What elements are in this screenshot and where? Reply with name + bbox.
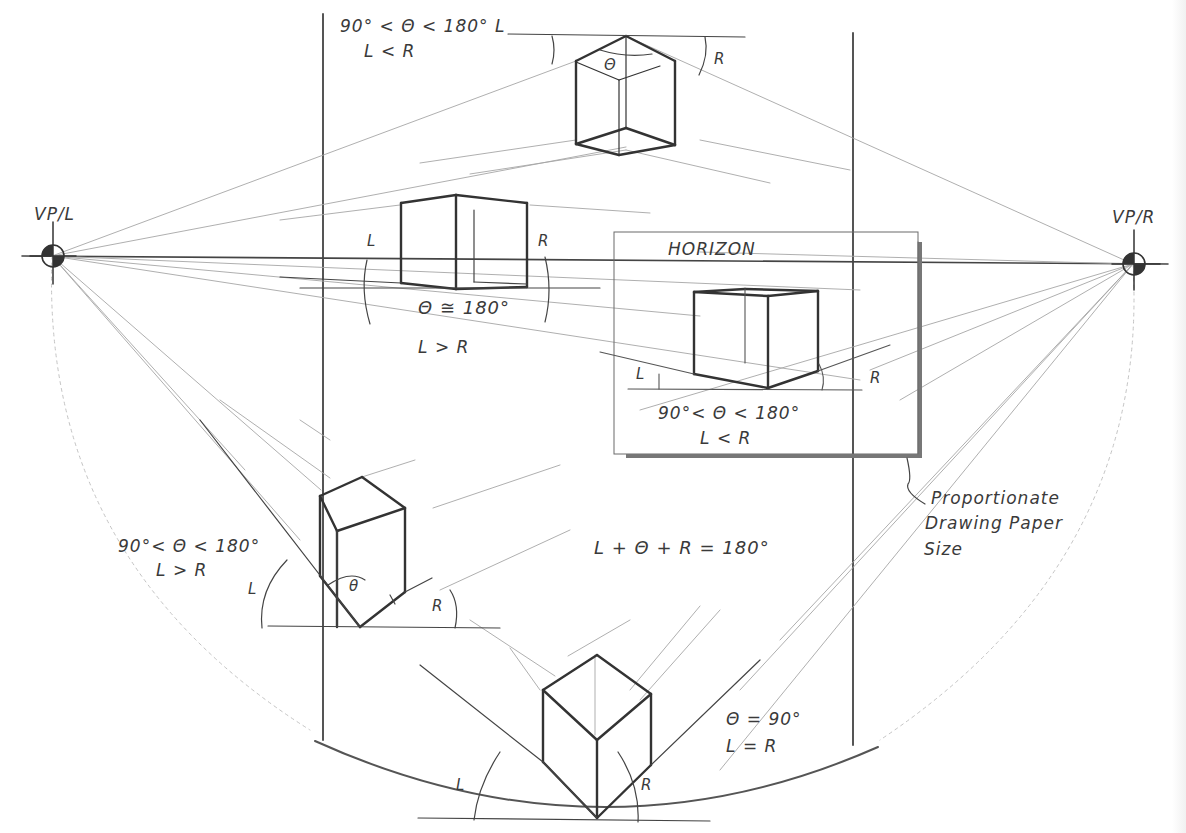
- inset-cube-relation: L < R: [700, 429, 751, 449]
- lower-cube-angle-l: L: [248, 581, 257, 598]
- inset-cube-angle-r: R: [870, 370, 881, 387]
- inset-cube-angle-l: L: [636, 366, 645, 383]
- bottom-cube-angle-r: R: [641, 777, 652, 794]
- cube-inset: [694, 289, 818, 388]
- scan-edge-shading: [1172, 0, 1186, 833]
- paper-note-line2: Drawing Paper: [925, 514, 1063, 534]
- bottom-cube-angle-l: L: [456, 777, 465, 794]
- top-cube-angle-r: R: [714, 51, 725, 68]
- bottom-cube-relation: L = R: [726, 737, 777, 757]
- paper-leader: [907, 458, 925, 504]
- mid-cube-angle-r: R: [538, 233, 549, 250]
- diagram-lines: [0, 0, 1186, 833]
- top-cube-condition: 90° < Θ < 180° L: [340, 17, 505, 37]
- paper-note-line1: Proportionate: [931, 489, 1060, 509]
- inset-cube-condition: 90°< Θ < 180°: [658, 404, 800, 424]
- lower-cube-condition: 90°< Θ < 180°: [118, 537, 260, 557]
- angle-sum-equation: L + Θ + R = 180°: [594, 538, 770, 559]
- horizon-label: HORIZON: [668, 240, 756, 260]
- vp-left-label: VP/L: [34, 205, 75, 225]
- cube-lower-left: [320, 477, 405, 627]
- vp-right-label: VP/R: [1112, 208, 1155, 228]
- construction-lines: [52, 36, 1133, 770]
- lower-cube-angle-r: R: [432, 598, 443, 615]
- mid-cube-condition: Θ ≅ 180°: [418, 298, 510, 319]
- paper-note-line3: Size: [924, 540, 963, 560]
- top-cube-relation: L < R: [364, 42, 415, 62]
- lower-cube-relation: L > R: [156, 561, 207, 581]
- top-cube-theta: Θ: [604, 57, 617, 74]
- bottom-cube-condition: Θ = 90°: [726, 710, 802, 730]
- cube-bottom: [543, 655, 651, 818]
- perspective-diagram: VP/L VP/R HORIZON 90° < Θ < 180° L L < R…: [0, 0, 1186, 833]
- mid-cube-angle-l: L: [367, 233, 376, 250]
- lower-cube-theta: θ: [349, 578, 359, 595]
- mid-cube-relation: L > R: [418, 338, 469, 358]
